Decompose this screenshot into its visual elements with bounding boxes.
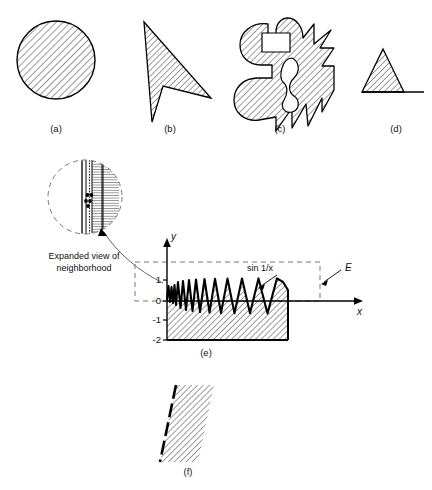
- arrow-hatch-fill: [138, 16, 220, 131]
- sin-curve-label: sin 1/x: [247, 263, 273, 273]
- circle-hatch-fill: [10, 14, 105, 109]
- figure-canvas: [0, 0, 432, 490]
- expanded-view-label-line2: neighborhood: [56, 263, 111, 273]
- caption-f: (f): [184, 466, 193, 477]
- E-label-arrowhead: [321, 280, 328, 286]
- detail-point-3: [84, 199, 88, 203]
- caption-d: (d): [390, 123, 402, 134]
- region-E-label: E: [345, 262, 352, 273]
- blob-rectangular-hole: [262, 33, 290, 52]
- panel-b-arrow: [138, 16, 220, 131]
- detail-point-2: [90, 193, 94, 197]
- panel-d-triangle: [358, 44, 424, 98]
- panel-f-parallelogram: [150, 380, 225, 470]
- panel-c-blob: [228, 12, 343, 137]
- caption-b: (b): [164, 123, 176, 134]
- y-axis-label: y: [171, 231, 176, 242]
- E-label-leader-line: [324, 270, 341, 282]
- y-axis-arrowhead: [163, 238, 171, 247]
- parallelogram-hatch-fill: [150, 380, 225, 470]
- detail-point-4: [88, 199, 92, 203]
- caption-e: (e): [200, 347, 212, 358]
- caption-a: (a): [50, 123, 62, 134]
- expanded-view-label: Expanded view of neighborhood: [29, 250, 139, 274]
- x-axis-label: x: [357, 306, 362, 317]
- caption-c: (c): [274, 123, 285, 134]
- detail-dense-strip: [92, 160, 102, 235]
- detail-point-5: [86, 204, 90, 208]
- y-tick-label-neg1: -1: [139, 314, 161, 325]
- panel-e-plot: [135, 238, 363, 350]
- detail-point-1: [86, 193, 90, 197]
- y-tick-label-1: 1: [143, 274, 161, 285]
- y-tick-label-neg2: -2: [139, 334, 161, 345]
- y-tick-label-0: 0: [143, 295, 161, 306]
- panel-a-circle: [10, 14, 105, 109]
- expanded-view-label-line1: Expanded view of: [48, 251, 119, 261]
- x-axis-arrowhead: [354, 297, 363, 305]
- magnified-content: [48, 160, 123, 235]
